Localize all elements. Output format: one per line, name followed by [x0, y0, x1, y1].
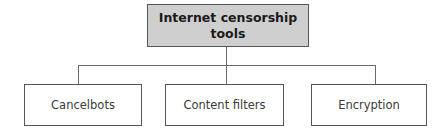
connector-right-vertical: [375, 65, 376, 84]
child-node-cancelbots: Cancelbots: [24, 84, 142, 126]
child-node-encryption: Encryption: [311, 84, 427, 126]
connector-horizontal-bar: [78, 65, 376, 66]
child-node-content-filters: Content filters: [165, 84, 284, 126]
child-node-label: Content filters: [183, 98, 265, 112]
child-node-label: Cancelbots: [51, 98, 115, 112]
connector-root-vertical: [226, 47, 227, 66]
root-node-label: Internet censorship tools: [158, 10, 298, 42]
root-node-internet-censorship-tools: Internet censorship tools: [147, 4, 309, 47]
connector-middle-vertical: [226, 65, 227, 84]
child-node-label: Encryption: [338, 98, 400, 112]
connector-left-vertical: [78, 65, 79, 84]
